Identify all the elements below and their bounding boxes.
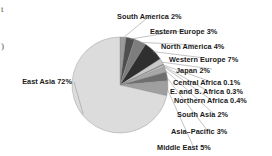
pie-chart-figure: t ) South America 2% Eastern Europe 3% N… xyxy=(0,0,272,156)
pie-label-south-america: South America 2% xyxy=(117,12,182,21)
pie-label-western-europe: Western Europe 7% xyxy=(169,55,238,64)
pie-label-central-africa: Central Africa 0.1% xyxy=(173,78,240,87)
pie-label-middle-east: Middle East 5% xyxy=(157,143,211,152)
pie-label-japan: Japan 2% xyxy=(176,66,210,75)
pie-label-northern-africa: Northern Africa 0.4% xyxy=(174,96,247,105)
pie-label-asia-pacific: Asia–Pacific 3% xyxy=(171,127,227,136)
pie-label-east-asia: East Asia 72% xyxy=(10,77,72,86)
pie-label-eastern-europe: Eastern Europe 3% xyxy=(150,27,217,36)
pie-label-north-america: North America 4% xyxy=(161,42,224,51)
pie-label-e-and-s-africa: E. and S. Africa 0.3% xyxy=(170,87,243,96)
pie-label-south-asia: South Asia 2% xyxy=(177,110,228,119)
